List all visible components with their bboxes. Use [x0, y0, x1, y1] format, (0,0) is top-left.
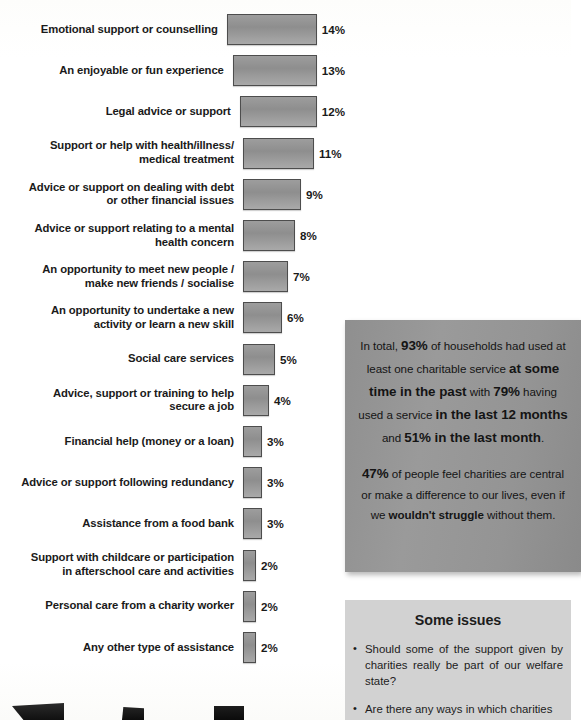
bar-row: Social care services5%: [0, 343, 345, 376]
stat-line1-prefix: In total,: [360, 339, 401, 352]
stat-para2-d: without them.: [487, 508, 555, 521]
bar: [243, 385, 269, 416]
bar-row: Any other type of assistance2%: [0, 631, 345, 664]
bar: [243, 426, 262, 457]
bar-category-label: Legal advice or support: [0, 105, 240, 119]
bar-category-label: Assistance from a food bank: [0, 517, 243, 531]
bar-category-label: Support with childcare or participation …: [0, 551, 243, 579]
stat-79-percent: 79%: [493, 384, 520, 399]
stat-wouldnt-struggle: wouldn't struggle: [389, 508, 484, 521]
bar-category-label: Advice, support or training to help secu…: [0, 387, 243, 415]
bar-and-value: 5%: [243, 344, 297, 375]
bar-value-label: 12%: [322, 105, 345, 118]
bar: [243, 138, 314, 169]
bar: [243, 302, 282, 333]
bar-row: Legal advice or support12%: [0, 95, 345, 128]
stat-47-percent: 47%: [362, 466, 389, 481]
stat-line6-tail: .: [541, 431, 544, 444]
bar-row: Advice, support or training to help secu…: [0, 384, 345, 417]
bar-row: Assistance from a food bank3%: [0, 507, 345, 540]
bar-and-value: 2%: [243, 632, 278, 663]
bar: [243, 550, 256, 581]
bar-value-label: 3%: [267, 517, 284, 530]
bar-category-label: Any other type of assistance: [0, 641, 243, 655]
stat-line1-suffix: of households had: [428, 339, 525, 352]
bar-category-label: Advice or support relating to a mental h…: [0, 222, 243, 250]
bar: [243, 179, 301, 210]
bar-row: An opportunity to meet new people / make…: [0, 260, 345, 293]
bullet-icon: •: [353, 701, 365, 720]
statistics-callout-panel: In total, 93% of households had used at …: [345, 320, 581, 572]
bar-category-label: Personal care from a charity worker: [0, 599, 243, 613]
bar-and-value: 12%: [240, 96, 345, 127]
bar: [243, 467, 262, 498]
stat-line5-tail: and: [382, 431, 401, 444]
issues-list: •Should some of the support given by cha…: [353, 641, 563, 720]
bar-row: Financial help (money or a loan)3%: [0, 425, 345, 458]
stat-51-percent: 51%: [404, 430, 431, 445]
bar-category-label: Financial help (money or a loan): [0, 435, 243, 449]
bar: [243, 344, 275, 375]
bar-value-label: 7%: [293, 270, 310, 283]
horizontal-bar-chart: Emotional support or counselling14%An en…: [0, 0, 345, 692]
bar-row: Advice or support relating to a mental h…: [0, 219, 345, 252]
bar: [243, 591, 256, 622]
bullet-icon: •: [353, 641, 365, 690]
cutoff-photo-shape-2: [122, 707, 144, 720]
bar: [240, 96, 317, 127]
bar-and-value: 4%: [243, 385, 291, 416]
bar-and-value: 7%: [243, 261, 310, 292]
bar-value-label: 2%: [261, 559, 278, 572]
bar-row: Advice or support on dealing with debt o…: [0, 178, 345, 211]
bar-row: Personal care from a charity worker2%: [0, 590, 345, 623]
bar-value-label: 6%: [287, 311, 304, 324]
bar-category-label: Social care services: [0, 352, 243, 366]
bar-and-value: 3%: [243, 508, 284, 539]
bar-value-label: 5%: [280, 353, 297, 366]
bar-row: Support with childcare or participation …: [0, 549, 345, 582]
stat-93-percent: 93%: [401, 338, 428, 353]
stat-last-month: in the last month: [431, 430, 541, 445]
stat-para2-a: of people feel charities are: [389, 467, 527, 480]
bar-and-value: 2%: [243, 550, 278, 581]
some-issues-panel: Some issues •Should some of the support …: [345, 600, 571, 720]
bar-and-value: 3%: [243, 426, 284, 457]
bar-and-value: 13%: [233, 55, 345, 86]
bar-and-value: 8%: [243, 220, 317, 251]
bar: [243, 508, 262, 539]
bar: [243, 220, 295, 251]
stat-paragraph-2: 47% of people feel charities are central…: [357, 462, 569, 525]
bar-category-label: Advice or support following redundancy: [0, 476, 243, 490]
bar-value-label: 8%: [300, 229, 317, 242]
bar-category-label: Advice or support on dealing with debt o…: [0, 181, 243, 209]
bar: [243, 632, 256, 663]
bar-category-label: Emotional support or counselling: [0, 23, 227, 37]
issue-text: Should some of the support given by char…: [365, 641, 563, 690]
bar-value-label: 4%: [274, 394, 291, 407]
bar-and-value: 3%: [243, 467, 284, 498]
bar: [243, 261, 288, 292]
bar-value-label: 14%: [322, 23, 345, 36]
bar-category-label: An opportunity to undertake a new activi…: [0, 304, 243, 332]
stat-line3-tail: with: [466, 385, 490, 398]
bar-and-value: 6%: [243, 302, 304, 333]
issues-panel-title: Some issues: [353, 612, 563, 628]
callout-spacer: [357, 449, 569, 462]
bar-value-label: 2%: [261, 641, 278, 654]
stat-last-12-months: in the last 12 months: [436, 407, 568, 422]
bar-row: An enjoyable or fun experience13%: [0, 54, 345, 87]
bar-category-label: An enjoyable or fun experience: [0, 64, 233, 78]
cutoff-photo-shape-3: [214, 706, 244, 720]
bar-value-label: 3%: [267, 476, 284, 489]
stat-paragraph-1: In total, 93% of households had used at …: [357, 334, 569, 449]
bar-value-label: 3%: [267, 435, 284, 448]
bar-and-value: 9%: [243, 179, 323, 210]
bar-row: An opportunity to undertake a new activi…: [0, 301, 345, 334]
bar-row: Advice or support following redundancy3%: [0, 466, 345, 499]
bar-category-label: Support or help with health/illness/ med…: [0, 139, 243, 167]
issue-text: Are there any ways in which charities ar…: [365, 701, 563, 720]
bar-value-label: 13%: [322, 64, 345, 77]
bar-row: Support or help with health/illness/ med…: [0, 137, 345, 170]
bar: [227, 14, 317, 45]
bar-and-value: 11%: [243, 138, 342, 169]
